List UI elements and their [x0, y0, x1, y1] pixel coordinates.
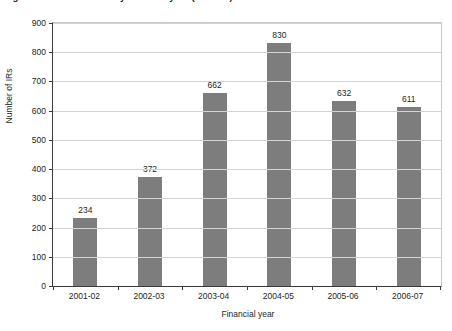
- bar[interactable]: [267, 43, 291, 286]
- gridline: [53, 140, 441, 141]
- y-tick-mark: [49, 140, 53, 141]
- bar-group[interactable]: 830: [247, 23, 312, 286]
- bar-group[interactable]: 632: [312, 23, 377, 286]
- gridline: [53, 228, 441, 229]
- y-tick-label: 700: [32, 76, 46, 86]
- x-tick-label: 2006-07: [392, 291, 423, 301]
- gridline: [53, 257, 441, 258]
- bars-layer: 234372662830632611: [53, 23, 441, 286]
- y-tick-label: 400: [32, 164, 46, 174]
- y-axis-title: Number of IRs: [4, 46, 18, 146]
- x-tick-mark: [440, 286, 441, 290]
- x-tick-mark: [247, 286, 248, 290]
- x-tick-mark: [182, 286, 183, 290]
- bar-chart-figure: Figure 1: Number of IRs by financial yea…: [0, 0, 452, 331]
- gridline: [53, 81, 441, 82]
- y-tick-label: 100: [32, 252, 46, 262]
- bar[interactable]: [138, 177, 162, 286]
- figure-caption: Figure 1: Number of IRs by financial yea…: [0, 0, 452, 9]
- x-tick-label: 2005-06: [327, 291, 358, 301]
- x-tick-mark: [53, 286, 54, 290]
- bar-group[interactable]: 234: [53, 23, 118, 286]
- bar-value-label: 611: [402, 94, 416, 104]
- bar-value-label: 830: [272, 30, 286, 40]
- y-tick-mark: [49, 169, 53, 170]
- y-tick-label: 200: [32, 223, 46, 233]
- bar-group[interactable]: 611: [376, 23, 441, 286]
- y-tick-mark: [49, 23, 53, 24]
- x-tick-mark: [376, 286, 377, 290]
- x-tick-label: 2004-05: [263, 291, 294, 301]
- bar-group[interactable]: 662: [182, 23, 247, 286]
- y-tick-label: 500: [32, 135, 46, 145]
- y-tick-label: 600: [32, 106, 46, 116]
- bar-value-label: 632: [337, 88, 351, 98]
- bar-value-label: 234: [78, 205, 92, 215]
- gridline: [53, 23, 441, 24]
- figure-caption-text: Figure 1: Number of IRs by financial yea…: [4, 0, 233, 2]
- x-tick-label: 2002-03: [133, 291, 164, 301]
- bar[interactable]: [332, 101, 356, 286]
- y-tick-mark: [49, 257, 53, 258]
- y-tick-label: 800: [32, 47, 46, 57]
- y-tick-mark: [49, 52, 53, 53]
- bar[interactable]: [397, 107, 421, 286]
- gridline: [53, 111, 441, 112]
- gridline: [53, 52, 441, 53]
- y-tick-mark: [49, 228, 53, 229]
- x-tick-label: 2003-04: [198, 291, 229, 301]
- x-tick-label: 2001-02: [69, 291, 100, 301]
- y-tick-mark: [49, 81, 53, 82]
- y-tick-mark: [49, 111, 53, 112]
- y-tick-label: 0: [41, 281, 46, 291]
- plot-area: 234372662830632611 010020030040050060070…: [52, 22, 442, 287]
- y-tick-label: 300: [32, 193, 46, 203]
- x-tick-mark: [312, 286, 313, 290]
- x-axis-title: Financial year: [44, 309, 452, 319]
- gridline: [53, 169, 441, 170]
- bar-group[interactable]: 372: [118, 23, 183, 286]
- y-tick-mark: [49, 198, 53, 199]
- x-tick-mark: [118, 286, 119, 290]
- y-tick-label: 900: [32, 18, 46, 28]
- gridline: [53, 198, 441, 199]
